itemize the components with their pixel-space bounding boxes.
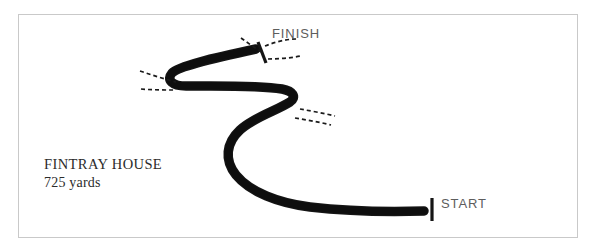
finish-label: FINISH xyxy=(272,27,320,42)
course-name: FINTRAY HOUSE xyxy=(44,156,162,173)
fairway-path-group xyxy=(170,49,424,211)
dashed-finish-lower-right xyxy=(268,56,301,59)
course-info-block: FINTRAY HOUSE 725 yards xyxy=(44,156,162,191)
fairway-path xyxy=(170,49,424,211)
dashed-mid-dogleg-lower xyxy=(295,118,331,125)
start-label: START xyxy=(441,197,487,212)
dashed-mid-dogleg-upper xyxy=(300,109,335,116)
course-length: 725 yards xyxy=(44,175,162,191)
golf-hole-diagram: FINISH START FINTRAY HOUSE 725 yards xyxy=(0,0,599,251)
dashed-left-dogleg-lower xyxy=(141,89,176,90)
fairway-path-overlay xyxy=(170,49,424,211)
